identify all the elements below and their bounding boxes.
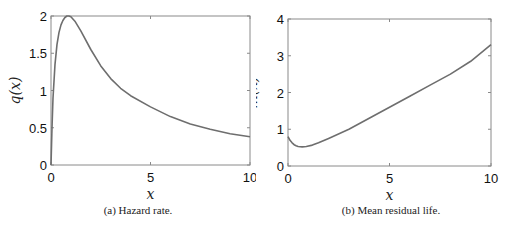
hazard-rate-ytick-label: 1.5 [29, 46, 47, 61]
mean-residual-life-curve [288, 45, 491, 147]
hazard-rate-ytick-label: 0.5 [29, 121, 47, 136]
mean-residual-life-ytick-label: 4 [277, 12, 284, 27]
mean-residual-life-caption: (b) Mean residual life. [331, 204, 451, 216]
hazard-rate-ytick-label: 1 [40, 84, 47, 99]
hazard-rate-xtick-label: 5 [147, 170, 154, 185]
mean-residual-life-ylabel: m(x) [256, 76, 260, 108]
hazard-rate-xtick-label: 0 [47, 170, 54, 185]
hazard-rate-xlabel: x [147, 186, 155, 200]
mean-residual-life-xtick-label: 0 [284, 171, 291, 186]
hazard-rate-caption: (a) Hazard rate. [78, 204, 198, 216]
mean-residual-life-axes-box [288, 19, 491, 166]
hazard-rate-chart: 00.511.520510xq(x) [0, 0, 256, 200]
mean-residual-life-xtick-label: 10 [484, 171, 498, 186]
mean-residual-life-ytick-label: 0 [277, 159, 284, 174]
mean-residual-life-panel: 012340510xm(x) (b) Mean residual life. [256, 0, 511, 227]
hazard-rate-ylabel: q(x) [7, 77, 23, 105]
mean-residual-life-ytick-label: 3 [277, 49, 284, 64]
hazard-rate-panel: 00.511.520510xq(x) (a) Hazard rate. [0, 0, 256, 227]
hazard-rate-ytick-label: 0 [40, 158, 47, 173]
mean-residual-life-ytick-label: 2 [277, 86, 284, 101]
hazard-rate-xtick-label: 10 [243, 170, 256, 185]
hazard-rate-ytick-label: 2 [40, 9, 47, 24]
mean-residual-life-xlabel: x [386, 187, 394, 200]
hazard-rate-axes-box [51, 16, 250, 165]
mean-residual-life-chart: 012340510xm(x) [256, 0, 511, 200]
hazard-rate-curve [51, 16, 250, 165]
mean-residual-life-ytick-label: 1 [277, 122, 284, 137]
mean-residual-life-xtick-label: 5 [386, 171, 393, 186]
